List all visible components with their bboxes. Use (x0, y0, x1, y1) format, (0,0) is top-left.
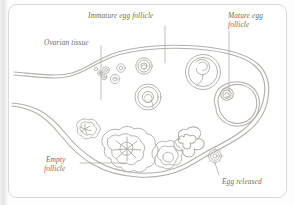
leader-egg-released (215, 163, 219, 175)
immature-follicle-medium (135, 84, 161, 110)
label-ovarian-tissue: Ovarian tissue (44, 38, 89, 47)
label-immature-egg-follicle: Immature egg follicle (88, 11, 153, 20)
released-egg (206, 147, 223, 164)
developing-follicle (186, 55, 221, 90)
label-empty-follicle: Empty follicle (44, 155, 65, 173)
immature-follicle-small (136, 58, 152, 74)
label-mature-egg-follicle: Mature egg follicle (228, 11, 263, 29)
label-egg-released: Egg released (222, 177, 262, 186)
ovary-illustration (0, 0, 294, 205)
primordial-follicle-cluster (94, 64, 125, 84)
empty-follicle-small (77, 119, 101, 139)
diagram-page: Immature egg follicle Mature egg follicl… (0, 0, 294, 205)
corpus-luteum-star (113, 137, 141, 161)
corpus-luteum-large (102, 126, 158, 172)
mature-follicle (214, 82, 259, 126)
ruptured-follicle (174, 127, 204, 157)
